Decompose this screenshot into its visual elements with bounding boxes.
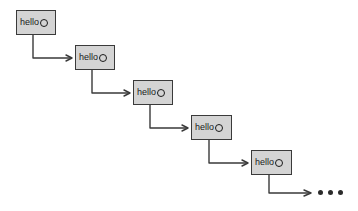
list-node-3[interactable]: hello bbox=[133, 80, 173, 105]
connector-node5-to-ellipsis bbox=[269, 175, 311, 196]
connector-node1-to-node2 bbox=[33, 35, 72, 61]
ellipsis-dot bbox=[338, 190, 343, 195]
pointer-ring-icon bbox=[157, 89, 165, 97]
list-node-2[interactable]: hello bbox=[75, 45, 115, 70]
connector-node2-to-node3 bbox=[92, 70, 130, 96]
list-node-1[interactable]: hello bbox=[16, 10, 56, 35]
connector-node3-to-node4 bbox=[150, 105, 188, 131]
node-label: hello bbox=[255, 158, 274, 167]
node-label: hello bbox=[137, 88, 156, 97]
connector-node4-to-node5 bbox=[209, 140, 248, 166]
pointer-ring-icon bbox=[215, 124, 223, 132]
list-node-5[interactable]: hello bbox=[251, 150, 292, 175]
ellipsis-dot bbox=[318, 190, 323, 195]
node-label: hello bbox=[195, 123, 214, 132]
pointer-ring-icon bbox=[40, 19, 48, 27]
pointer-ring-icon bbox=[275, 159, 283, 167]
node-label: hello bbox=[79, 53, 98, 62]
linked-list-diagram: hello hello hello hello hello bbox=[0, 0, 358, 211]
ellipsis-continuation bbox=[318, 190, 343, 195]
ellipsis-dot bbox=[328, 190, 333, 195]
node-label: hello bbox=[20, 18, 39, 27]
list-node-4[interactable]: hello bbox=[191, 115, 232, 140]
pointer-ring-icon bbox=[99, 54, 107, 62]
